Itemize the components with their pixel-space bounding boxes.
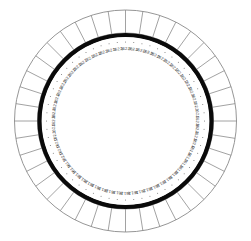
scale-tick-dot [79,57,80,58]
outer-ring-spoke [204,71,224,81]
outer-ring-spoke [75,22,85,42]
scale-tick-dot [204,112,205,113]
outer-ring-spoke [139,208,143,231]
scale-tick-dot [165,52,166,53]
outer-ring-spoke [212,135,235,139]
scale-tick-dot [53,88,54,89]
scale-tick-dot [200,96,201,97]
outer-ring-spoke [197,56,216,70]
scale-tick-dot [66,173,67,174]
scale-tick-dot [200,145,201,146]
scale-tick-dot [57,81,58,82]
outer-ring-spoke [177,31,191,50]
scale-tick-dot [72,62,73,63]
outer-ring-spoke [36,56,55,70]
scale-tick-dot [86,189,87,190]
outer-ring-spoke [165,22,175,42]
outer-ring-spoke [60,192,74,211]
scale-tick-dot [109,43,110,44]
scale-tick-dot [48,137,49,138]
dial-figure: 162.3162.3162.3162.2162.2162.2162.2162.2… [0,0,251,241]
scale-tick-dot [53,153,54,154]
scale-tick-dot [149,196,150,197]
outer-ring-spoke [47,183,63,199]
scale-tick-dot [66,68,67,69]
scale-tick-dot [165,189,166,190]
scale-tick-dot [184,173,185,174]
scale-tick-dot [61,74,62,75]
scale-tick-dot [101,196,102,197]
outer-ring-spoke [108,11,112,34]
scale-tick-dot [171,184,172,185]
outer-ring-spoke [27,161,47,171]
scale-tick-dot [117,42,118,43]
scale-tick-dot [109,198,110,199]
scale-tick-dot [157,48,158,49]
scale-tick-dot [202,104,203,105]
outer-ring-spoke [165,199,175,219]
scale-tick-dot [46,121,47,122]
scale-tick-dot [157,193,158,194]
scale-tick-dot [101,45,102,46]
scale-tick-dot [133,42,134,43]
scale-tick-dot [57,160,58,161]
outer-ring-spoke [27,71,47,81]
outer-ring-spoke [209,87,231,94]
scale-tick-dot [193,160,194,161]
outer-ring-spoke [153,205,160,227]
scale-tick-dot [189,167,190,168]
scale-tick-dot [117,199,118,200]
outer-ring-spoke [47,43,63,59]
scale-tick-dot [93,48,94,49]
outer-ring-spoke [36,173,55,187]
outer-ring-spoke [75,199,85,219]
scale-tick-dot [189,74,190,75]
scale-tick-dot [178,179,179,180]
dial-center-face [42,38,209,205]
scale-tick-dot [125,200,126,201]
scale-tick-dot [79,184,80,185]
outer-ring-spoke [16,135,39,139]
outer-ring-spoke [20,148,42,155]
outer-ring-spoke [153,15,160,37]
outer-ring-spoke [16,104,39,108]
scale-tick-dot [86,52,87,53]
outer-ring-spoke [91,15,98,37]
scale-tick-dot [204,129,205,130]
outer-ring-spoke [188,183,204,199]
scale-tick-dot [50,96,51,97]
outer-ring-spoke [209,148,231,155]
dial-canvas: 162.3162.3162.3162.2162.2162.2162.2162.2… [0,0,251,241]
scale-tick-dot [178,62,179,63]
outer-ring-spoke [20,87,42,94]
outer-ring-spoke [204,161,224,171]
scale-tick-dot [149,45,150,46]
outer-ring-spoke [108,208,112,231]
outer-ring-spoke [60,31,74,50]
scale-tick-dot [141,198,142,199]
scale-tick-dot [46,129,47,130]
scale-tick-dot [133,199,134,200]
outer-ring-spoke [197,173,216,187]
outer-ring-spoke [212,104,235,108]
scale-tick-dot [171,57,172,58]
scale-tick-dot [61,167,62,168]
scale-tick-dot [72,179,73,180]
scale-tick-dot [50,145,51,146]
scale-tick-dot [125,42,126,43]
outer-ring-spoke [188,43,204,59]
outer-ring-spoke [177,192,191,211]
scale-tick-dot [48,104,49,105]
scale-tick-dot [202,137,203,138]
scale-tick-dot [141,43,142,44]
outer-ring-spoke [139,11,143,34]
scale-tick-dot [46,112,47,113]
scale-tick-dot [197,88,198,89]
scale-tick-dot [93,193,94,194]
scale-tick-dot [184,68,185,69]
scale-tick-dot [204,121,205,122]
outer-ring-spoke [91,205,98,227]
scale-tick-dot [197,153,198,154]
scale-tick-dot [193,81,194,82]
